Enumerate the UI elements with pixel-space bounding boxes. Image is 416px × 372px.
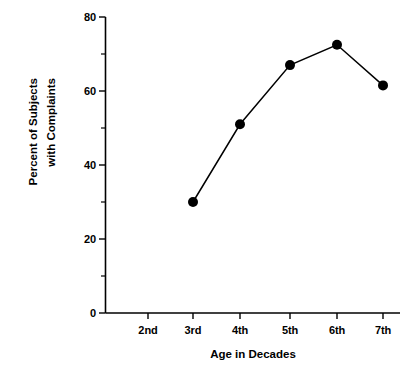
x-ticks [148, 313, 383, 319]
y-tick-label-40: 40 [66, 159, 96, 171]
x-tick-label-3rd: 3rd [185, 324, 202, 336]
y-tick-label-0: 0 [66, 307, 96, 319]
x-tick-label-4th: 4th [232, 324, 248, 336]
chart-figure: 80 60 40 20 0 2nd 3rd 4th 5th 6th 7th Ag… [0, 0, 416, 372]
data-point-marker [188, 197, 198, 207]
y-tick-label-20: 20 [66, 233, 96, 245]
data-point-marker [235, 119, 245, 129]
data-point-marker [285, 60, 295, 70]
x-tick-label-2nd: 2nd [138, 324, 157, 336]
data-point-marker [378, 80, 388, 90]
y-tick-label-80: 80 [66, 11, 96, 23]
x-tick-label-7th: 7th [375, 324, 391, 336]
data-series-markers [188, 40, 388, 207]
x-tick-label-6th: 6th [329, 324, 345, 336]
x-axis-title: Age in Decades [210, 348, 296, 360]
chart-plot-area [0, 0, 416, 372]
y-axis-title-line-1: Percent of Subjects [27, 78, 39, 185]
x-tick-label-5th: 5th [282, 324, 298, 336]
data-point-marker [332, 40, 342, 50]
y-tick-label-60: 60 [66, 85, 96, 97]
y-major-ticks [99, 17, 106, 313]
y-axis-title: Percent of Subjects with Complaints [14, 78, 60, 268]
y-axis-title-line-2: with Complaints [45, 78, 57, 167]
